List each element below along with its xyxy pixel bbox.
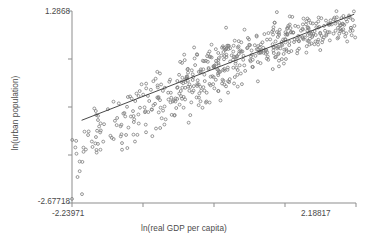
scatter-point — [178, 92, 181, 95]
scatter-point — [137, 122, 140, 125]
scatter-point — [225, 26, 228, 29]
scatter-point — [99, 122, 102, 125]
scatter-point — [160, 117, 163, 120]
scatter-point — [98, 125, 101, 128]
scatter-point — [232, 66, 235, 69]
scatter-point — [176, 80, 179, 83]
scatter-point — [96, 129, 99, 132]
scatter-point — [250, 49, 253, 52]
scatter-point — [345, 32, 348, 35]
scatter-point — [284, 58, 287, 61]
scatter-point — [112, 100, 115, 103]
scatter-point — [125, 134, 128, 137]
scatter-point — [149, 88, 152, 91]
scatter-point — [91, 146, 94, 149]
scatter-point — [351, 19, 354, 22]
scatter-point — [193, 57, 196, 60]
scatter-point — [126, 105, 129, 108]
scatter-point — [325, 19, 328, 22]
scatter-point — [159, 106, 162, 109]
scatter-point — [335, 10, 338, 13]
scatter-point — [256, 80, 259, 83]
scatter-point — [297, 25, 300, 28]
scatter-point — [148, 100, 151, 103]
scatter-point — [145, 82, 148, 85]
scatter-point — [121, 142, 124, 145]
scatter-point — [87, 134, 90, 137]
scatter-point — [232, 44, 235, 47]
scatter-point — [161, 89, 164, 92]
scatter-point — [200, 89, 203, 92]
scatter-point — [203, 89, 206, 92]
scatter-point — [213, 87, 216, 90]
scatter-point — [144, 123, 147, 126]
scatter-point — [151, 135, 154, 138]
scatter-point — [164, 118, 167, 121]
scatter-point — [138, 90, 141, 93]
y-axis-title: ln(urban population) — [11, 76, 20, 151]
scatter-point — [302, 17, 305, 20]
scatter-point — [259, 43, 262, 46]
scatter-point — [319, 49, 322, 52]
scatter-point — [132, 133, 135, 136]
scatter-point — [190, 69, 193, 72]
scatter-point — [214, 78, 217, 81]
scatter-point — [346, 40, 349, 43]
scatter-point — [124, 115, 127, 118]
scatter-point — [275, 11, 278, 14]
scatter-point — [210, 43, 213, 46]
scatter-point — [222, 51, 225, 54]
scatter-point — [187, 121, 190, 124]
scatter-point — [116, 117, 119, 120]
scatter-point — [156, 70, 159, 73]
scatter-point — [328, 39, 331, 42]
scatter-point — [163, 123, 166, 126]
scatter-point — [278, 59, 281, 62]
y-axis-min-label: -2.67718 — [38, 197, 70, 206]
scatter-point — [223, 58, 226, 61]
scatter-point — [136, 133, 139, 136]
scatter-point — [170, 96, 173, 99]
scatter-point — [315, 22, 318, 25]
scatter-point — [132, 110, 135, 113]
scatter-plot-figure: 1.2868 -2.67718 -2.23971 2.18817 ln(real… — [0, 0, 368, 241]
scatter-point — [154, 77, 157, 80]
scatter-point — [254, 54, 257, 57]
scatter-point — [271, 68, 274, 71]
scatter-point — [82, 146, 85, 149]
scatter-point — [239, 72, 242, 75]
scatter-point — [282, 62, 285, 65]
scatter-point — [155, 127, 158, 130]
scatter-point — [159, 127, 162, 130]
scatter-point — [126, 147, 129, 150]
scatter-point — [237, 40, 240, 43]
scatter-point — [175, 107, 178, 110]
scatter-point — [350, 34, 353, 37]
scatter-point — [156, 86, 159, 89]
y-axis-ticks — [68, 11, 72, 203]
scatter-point — [334, 29, 337, 32]
scatter-point — [202, 86, 205, 89]
scatter-point — [121, 148, 124, 151]
scatter-point — [278, 65, 281, 68]
scatter-point — [266, 38, 269, 41]
regression-line — [82, 14, 355, 120]
scatter-point — [97, 119, 100, 122]
scatter-point — [87, 130, 90, 133]
scatter-point — [242, 58, 245, 61]
scatter-point — [236, 85, 239, 88]
scatter-point — [76, 176, 79, 179]
scatter-point — [194, 64, 197, 67]
scatter-point — [219, 99, 222, 102]
scatter-point — [344, 35, 347, 38]
scatter-point — [145, 131, 148, 134]
scatter-point — [203, 80, 206, 83]
scatter-point — [139, 106, 142, 109]
scatter-point — [199, 100, 202, 103]
scatter-point — [272, 33, 275, 36]
scatter-point — [233, 82, 236, 85]
scatter-point — [93, 107, 96, 110]
scatter-point — [272, 26, 275, 29]
scatter-point — [353, 24, 356, 27]
scatter-point — [143, 106, 146, 109]
